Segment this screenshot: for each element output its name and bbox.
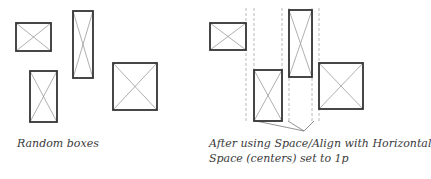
leader-line [256, 121, 304, 131]
right-caption-line1: After using Space/Align with Horizontal [209, 136, 431, 151]
left-caption: Random boxes [17, 136, 99, 151]
leader-line [304, 121, 314, 131]
right-caption-line2: Space (centers) set to 1p [209, 151, 349, 166]
